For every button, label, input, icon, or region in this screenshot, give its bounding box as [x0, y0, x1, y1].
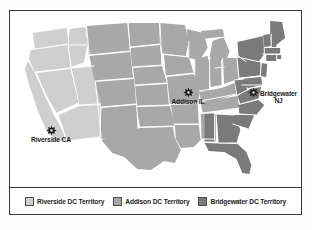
legend-swatch-riverside	[25, 197, 34, 206]
map-marker-riverside-label: Riverside CA	[31, 136, 71, 143]
legend-label-riverside: Riverside DC Territory	[37, 198, 104, 205]
map-marker-addison-label: Addison IL	[171, 98, 204, 105]
map-marker-riverside[interactable]: Riverside CA	[20, 125, 82, 143]
legend-item-bridgewater[interactable]: Bridgewater DC Territory	[198, 197, 286, 206]
legend-label-addison: Addison DC Territory	[125, 198, 189, 205]
map-marker-bridgewater-label: Bridgewater NJ	[260, 90, 297, 105]
star-marker-icon	[183, 87, 194, 98]
map-frame: Addison IL Bridgewater NJ	[9, 10, 302, 215]
map-marker-bridgewater[interactable]: Bridgewater NJ	[248, 87, 308, 105]
map-legend: Riverside DC Territory Addison DC Territ…	[10, 187, 301, 214]
legend-item-addison[interactable]: Addison DC Territory	[113, 197, 189, 206]
star-marker-icon	[248, 87, 259, 98]
legend-swatch-addison	[113, 197, 122, 206]
map-canvas: Addison IL Bridgewater NJ	[10, 11, 301, 187]
legend-swatch-bridgewater	[198, 197, 207, 206]
star-marker-icon	[46, 125, 57, 136]
territory-map-figure: Addison IL Bridgewater NJ	[0, 0, 312, 230]
map-marker-addison[interactable]: Addison IL	[158, 87, 218, 105]
legend-item-riverside[interactable]: Riverside DC Territory	[25, 197, 104, 206]
legend-label-bridgewater: Bridgewater DC Territory	[210, 198, 286, 205]
